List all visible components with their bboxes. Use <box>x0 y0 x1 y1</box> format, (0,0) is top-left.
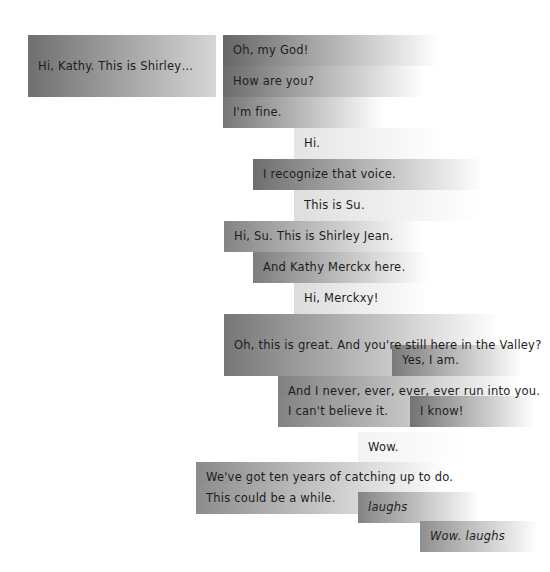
utterance-bar: This is Su. <box>294 190 479 221</box>
utterance-text: How are you? <box>223 66 423 97</box>
utterance-bar: And Kathy Merckx here. <box>253 252 428 283</box>
utterance-bar: How are you? <box>223 66 423 97</box>
utterance-text: Yes, I am. <box>392 345 522 376</box>
utterance-text: Wow. laughs <box>420 521 538 552</box>
utterance-bar: Hi, Su. This is Shirley Jean. <box>224 221 420 252</box>
utterance-text: Hi, Su. This is Shirley Jean. <box>224 221 420 252</box>
utterance-text: I recognize that voice. <box>253 159 483 190</box>
utterance-bar: Wow. laughs <box>420 521 538 552</box>
utterance-text: I know! <box>410 396 534 427</box>
utterance-bar: I'm fine. <box>223 97 383 128</box>
utterance-text: Wow. <box>358 432 468 463</box>
utterance-text: This is Su. <box>294 190 479 221</box>
utterance-text: Hi, Kathy. This is Shirley… <box>28 51 216 82</box>
utterance-text: Hi, Merckxy! <box>294 283 429 314</box>
utterance-bar: Wow. <box>358 432 468 463</box>
utterance-bar: laughs <box>358 492 480 523</box>
conversation-timeline: Hi, Kathy. This is Shirley…Oh, my God!Ho… <box>0 0 550 572</box>
utterance-bar: Hi, Kathy. This is Shirley… <box>28 35 216 97</box>
utterance-bar: Hi, Merckxy! <box>294 283 429 314</box>
utterance-text: laughs <box>358 492 480 523</box>
utterance-bar: I recognize that voice. <box>253 159 483 190</box>
utterance-bar: I know! <box>410 396 534 427</box>
utterance-text: And Kathy Merckx here. <box>253 252 428 283</box>
utterance-text: Hi. <box>294 128 444 159</box>
utterance-bar: Oh, my God! <box>223 35 439 66</box>
utterance-bar: Hi. <box>294 128 444 159</box>
utterance-text: Oh, my God! <box>223 35 439 66</box>
utterance-text: I'm fine. <box>223 97 383 128</box>
utterance-bar: Yes, I am. <box>392 345 522 376</box>
